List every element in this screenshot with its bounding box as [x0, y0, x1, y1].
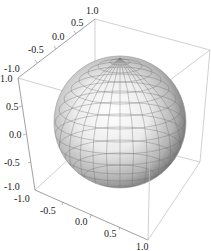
sphere-surface [54, 56, 186, 188]
tick-label: -0.5 [40, 205, 56, 216]
tick-label: -0.5 [4, 157, 20, 168]
tick-label: 1.0 [86, 5, 99, 16]
bottom-axis-labels: -1.0 -0.5 0.0 0.5 1.0 [14, 193, 149, 251]
tick-label: 0.0 [52, 31, 65, 42]
tick-label: 0.0 [9, 129, 22, 140]
top-axis-labels: -1.0 -0.5 0.0 0.5 1.0 [4, 5, 99, 74]
tick-label: 0.5 [71, 17, 84, 28]
tick-label: 1.0 [136, 241, 149, 251]
left-axis-labels: 1.0 0.5 0.0 -0.5 -1.0 [0, 73, 22, 192]
sphere-3d-plot: -1.0 -0.5 0.0 0.5 1.0 1.0 0.5 0.0 -0.5 -… [0, 0, 211, 251]
tick-label: 0.5 [104, 228, 117, 239]
tick-label: -1.0 [14, 193, 30, 204]
tick-label: 0.0 [75, 216, 88, 227]
tick-label: 1.0 [0, 73, 13, 84]
tick-label: 0.5 [6, 101, 19, 112]
tick-label: -1.0 [4, 181, 20, 192]
tick-label: -0.5 [28, 44, 44, 55]
